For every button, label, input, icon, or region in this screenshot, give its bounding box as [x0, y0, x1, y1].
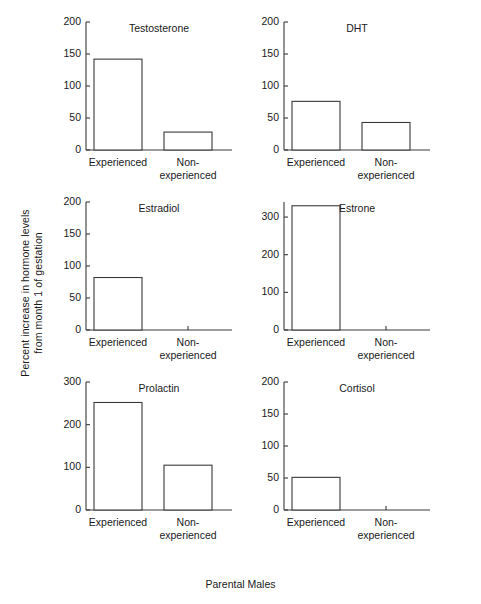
- bar-experienced: [292, 101, 340, 150]
- y-tick-label: 0: [41, 323, 81, 335]
- y-tick-label: 100: [41, 259, 81, 271]
- category-label-line2: experienced: [341, 169, 431, 182]
- category-label-line1: Non-: [143, 156, 233, 169]
- y-tick-label: 50: [239, 471, 279, 483]
- plot-area: [258, 382, 433, 512]
- panel-prolactin: 0100200300ProlactinExperiencedNon-experi…: [60, 382, 235, 556]
- category-label-line2: experienced: [143, 529, 233, 542]
- bar-experienced: [292, 206, 340, 330]
- y-tick-label: 100: [41, 79, 81, 91]
- category-label-line2: experienced: [341, 349, 431, 362]
- category-label-non-experienced: Non-experienced: [341, 516, 431, 541]
- y-tick-label: 50: [239, 111, 279, 123]
- panel-testosterone: 050100150200TestosteroneExperiencedNon-e…: [60, 22, 235, 196]
- panel-title: Prolactin: [86, 382, 232, 394]
- y-tick-label: 200: [41, 418, 81, 430]
- plot-area: [258, 22, 433, 152]
- category-label-non-experienced: Non-experienced: [143, 156, 233, 181]
- category-label-line2: experienced: [143, 169, 233, 182]
- y-tick-label: 200: [41, 195, 81, 207]
- y-tick-label: 200: [41, 15, 81, 27]
- category-label-non-experienced: Non-experienced: [143, 336, 233, 361]
- y-tick-label: 100: [239, 439, 279, 451]
- panel-estrone: 0100200300EstroneExperiencedNon-experien…: [258, 202, 433, 376]
- y-tick-label: 0: [41, 503, 81, 515]
- y-tick-label: 200: [239, 375, 279, 387]
- x-axis-label: Parental Males: [0, 578, 481, 590]
- y-tick-label: 50: [41, 111, 81, 123]
- y-axis-label-line1: Percent increase in hormone levels: [19, 209, 31, 376]
- category-label-line1: Non-: [341, 516, 431, 529]
- bar-non-experienced: [164, 465, 212, 510]
- panel-title: Testosterone: [86, 22, 232, 34]
- category-label-line1: Non-: [143, 336, 233, 349]
- y-tick-label: 0: [41, 143, 81, 155]
- bar-non-experienced: [362, 122, 410, 150]
- category-label-line1: Non-: [143, 516, 233, 529]
- y-tick-label: 0: [239, 323, 279, 335]
- category-label-line2: experienced: [341, 529, 431, 542]
- panel-title: Estradiol: [86, 202, 232, 214]
- panel-cortisol: 050100150200CortisolExperiencedNon-exper…: [258, 382, 433, 556]
- plot-area: [258, 202, 433, 332]
- bar-experienced: [292, 477, 340, 510]
- bar-experienced: [94, 59, 142, 150]
- category-label-non-experienced: Non-experienced: [143, 516, 233, 541]
- bar-experienced: [94, 402, 142, 510]
- plot-area: [60, 22, 235, 152]
- hormone-increase-figure: Percent increase in hormone levels from …: [0, 0, 481, 604]
- plot-area: [60, 382, 235, 512]
- plot-area: [60, 202, 235, 332]
- y-tick-label: 0: [239, 503, 279, 515]
- category-label-line1: Non-: [341, 156, 431, 169]
- y-tick-label: 50: [41, 291, 81, 303]
- category-label-line2: experienced: [143, 349, 233, 362]
- y-tick-label: 100: [41, 460, 81, 472]
- y-tick-label: 150: [239, 47, 279, 59]
- category-label-non-experienced: Non-experienced: [341, 156, 431, 181]
- y-tick-label: 150: [239, 407, 279, 419]
- category-label-line1: Non-: [341, 336, 431, 349]
- y-tick-label: 300: [41, 375, 81, 387]
- y-tick-label: 150: [41, 47, 81, 59]
- panel-title: Cortisol: [284, 382, 430, 394]
- panel-dht: 050100150200DHTExperiencedNon-experience…: [258, 22, 433, 196]
- y-tick-label: 100: [239, 285, 279, 297]
- category-label-non-experienced: Non-experienced: [341, 336, 431, 361]
- y-tick-label: 100: [239, 79, 279, 91]
- bar-non-experienced: [164, 132, 212, 150]
- y-tick-label: 200: [239, 15, 279, 27]
- y-tick-label: 0: [239, 143, 279, 155]
- bar-experienced: [94, 278, 142, 330]
- y-tick-label: 150: [41, 227, 81, 239]
- y-tick-label: 300: [239, 210, 279, 222]
- panel-estradiol: 050100150200EstradiolExperiencedNon-expe…: [60, 202, 235, 376]
- y-tick-label: 200: [239, 248, 279, 260]
- panel-title: DHT: [284, 22, 430, 34]
- panel-title: Estrone: [284, 202, 430, 214]
